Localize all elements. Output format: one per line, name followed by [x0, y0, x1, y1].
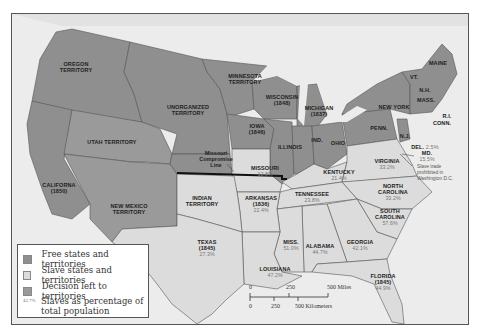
map-frame: OREGON TERRITORY MINNESOTA TERRITORY UNO…	[11, 13, 469, 325]
label-ri: R.I.	[443, 113, 452, 119]
label-mississippi: MISS.51.0%	[283, 239, 298, 251]
label-south-carolina: SOUTH CAROLINA57.6%	[375, 208, 405, 226]
label-texas: TEXAS (1845)27.3%	[198, 239, 217, 257]
label-conn: CONN.	[433, 120, 451, 126]
label-iowa: IOWA (1846)	[249, 123, 266, 135]
label-ohio: OHIO	[331, 140, 345, 146]
scale-line	[249, 293, 329, 303]
label-louisiana: LOUISIANA47.2%	[259, 266, 290, 278]
legend-pct-label-1: Slaves as percentage of	[41, 296, 143, 306]
scale-bar: 0 250 500 Miles 0 250 500 Kilometers	[249, 284, 379, 324]
swatch-slave-icon	[23, 271, 31, 280]
label-kentucky: KENTUCKY21.4%	[323, 169, 354, 181]
label-unorganized: UNORGANIZED TERRITORY	[167, 104, 209, 116]
label-oregon: OREGON TERRITORY	[60, 61, 92, 73]
label-indian: INDIAN TERRITORY	[186, 195, 218, 207]
label-michigan: MICHIGAN (1837)	[305, 105, 334, 117]
label-arkansas: ARKANSAS (1836)22.4%	[245, 195, 277, 213]
label-mass: MASS.	[417, 97, 435, 103]
label-illinois: ILLINOIS	[278, 144, 302, 150]
legend-item-pct: 42.7% Slaves as percentage of total popu…	[23, 296, 143, 316]
label-utah: UTAH TERRITORY	[87, 139, 136, 145]
label-wisconsin: WISCONSIN (1848)	[266, 94, 299, 106]
dc-note: Slave trade prohibited in Washington D.C…	[417, 164, 453, 182]
label-minnesota: MINNESOTA TERRITORY	[228, 73, 262, 85]
missouri-compromise-label: Missouri Compromise Line	[199, 150, 233, 168]
label-north-carolina: NORTH CAROLINA33.2%	[378, 183, 408, 201]
label-nh: N.H.	[419, 87, 430, 93]
label-maryland: MD.15.5%	[419, 150, 434, 162]
label-georgia: GEORGIA42.1%	[347, 239, 374, 251]
legend: Free states and territories Slave states…	[17, 244, 149, 318]
legend-pct-label-2: total population	[41, 306, 109, 316]
label-alabama: ALABAMA44.7%	[306, 243, 335, 255]
label-new-mexico: NEW MEXICO TERRITORY	[110, 203, 147, 215]
label-indiana: IND.	[311, 137, 322, 143]
label-vermont: VT.	[410, 74, 418, 80]
label-maine: MAINE	[429, 60, 447, 66]
label-nj: N.J.	[400, 133, 411, 139]
label-penn: PENN.	[370, 125, 387, 131]
swatch-free-icon	[23, 255, 32, 264]
swatch-decision-icon	[23, 287, 32, 296]
label-missouri: MISSOURI12.8%	[251, 165, 279, 177]
label-virginia: VIRGINIA33.2%	[374, 158, 399, 170]
label-new-york: NEW YORK	[379, 104, 410, 110]
label-california: CALIFORNA (1850)	[42, 182, 75, 194]
label-tennessee: TENNESSEE23.8%	[295, 191, 329, 203]
